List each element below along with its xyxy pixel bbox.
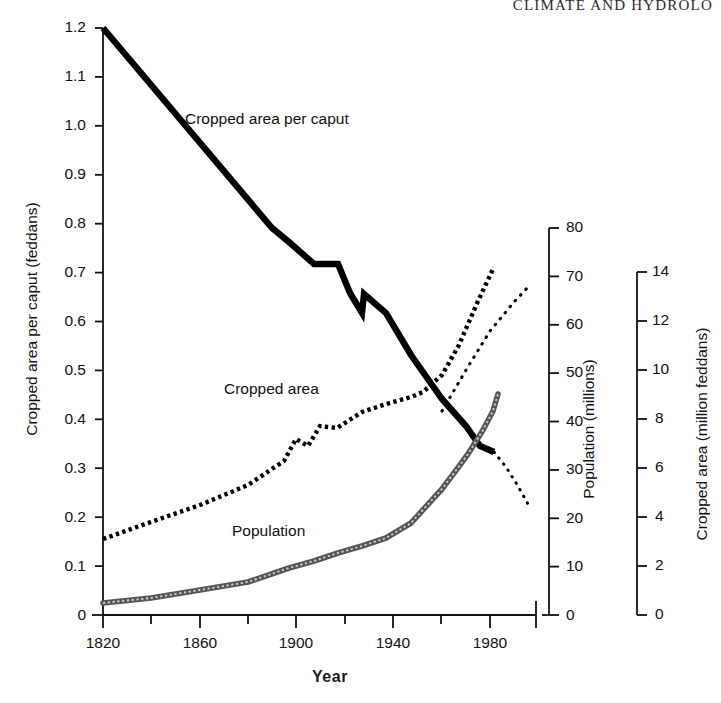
series-cropped-area-per-caput-projection — [494, 452, 528, 504]
y-area-tick-6: 6 — [655, 458, 691, 476]
y-left-tick-0.9: 0.9 — [40, 165, 86, 183]
axis-right-population — [542, 228, 559, 615]
y-axis-title-cropped-area: Cropped area (million feddans) — [693, 284, 711, 584]
y-left-tick-0.2: 0.2 — [40, 508, 86, 526]
y-left-tick-0.1: 0.1 — [40, 557, 86, 575]
y-area-tick-14: 14 — [652, 262, 688, 280]
x-tick-1980: 1980 — [460, 634, 520, 652]
y-left-tick-0.6: 0.6 — [40, 312, 86, 330]
x-tick-1860: 1860 — [170, 634, 230, 652]
y-pop-tick-70: 70 — [566, 267, 602, 285]
series-label-population: Population — [232, 522, 305, 540]
y-pop-tick-0: 0 — [566, 606, 602, 624]
y-area-tick-10: 10 — [652, 360, 688, 378]
y-area-tick-4: 4 — [655, 507, 691, 525]
series-population — [103, 394, 498, 603]
y-area-tick-12: 12 — [652, 311, 688, 329]
axis-right-cropped-area — [637, 272, 647, 615]
y-left-tick-0.3: 0.3 — [40, 459, 86, 477]
y-left-tick-0.5: 0.5 — [40, 361, 86, 379]
y-axis-title-left: Cropped area per caput (feddans) — [23, 169, 41, 469]
y-pop-tick-80: 80 — [566, 218, 602, 236]
y-area-tick-2: 2 — [655, 556, 691, 574]
x-tick-1900: 1900 — [266, 634, 326, 652]
axis-x — [103, 601, 536, 628]
x-tick-1820: 1820 — [73, 634, 133, 652]
y-left-tick-1.0: 1.0 — [40, 116, 86, 134]
y-area-tick-0: 0 — [655, 605, 691, 623]
y-left-tick-1.1: 1.1 — [40, 67, 86, 85]
chart-canvas — [0, 0, 721, 703]
series-population-highlight — [103, 394, 498, 603]
axis-left — [92, 28, 103, 615]
figure-egypt-cropped-area-population: 1.2 1.1 1.0 0.9 0.8 0.7 0.6 0.5 0.4 0.3 … — [0, 0, 721, 703]
y-left-tick-0.4: 0.4 — [40, 410, 86, 428]
y-left-tick-0: 0 — [40, 606, 86, 624]
y-left-tick-0.8: 0.8 — [40, 214, 86, 232]
series-label-cropped-area: Cropped area — [224, 380, 319, 398]
y-pop-tick-10: 10 — [566, 557, 602, 575]
series-population-projection — [442, 285, 530, 411]
y-area-tick-8: 8 — [655, 409, 691, 427]
x-axis-title: Year — [180, 668, 480, 686]
y-axis-title-population: Population (millions) — [580, 304, 598, 554]
x-tick-1940: 1940 — [363, 634, 423, 652]
y-left-tick-0.7: 0.7 — [40, 263, 86, 281]
y-left-tick-1.2: 1.2 — [40, 18, 86, 36]
series-label-cropped-area-per-caput: Cropped area per caput — [185, 110, 349, 128]
